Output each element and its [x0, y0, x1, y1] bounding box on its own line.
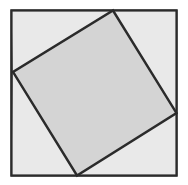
geometry-figure — [0, 0, 188, 185]
figure-container — [0, 0, 188, 185]
